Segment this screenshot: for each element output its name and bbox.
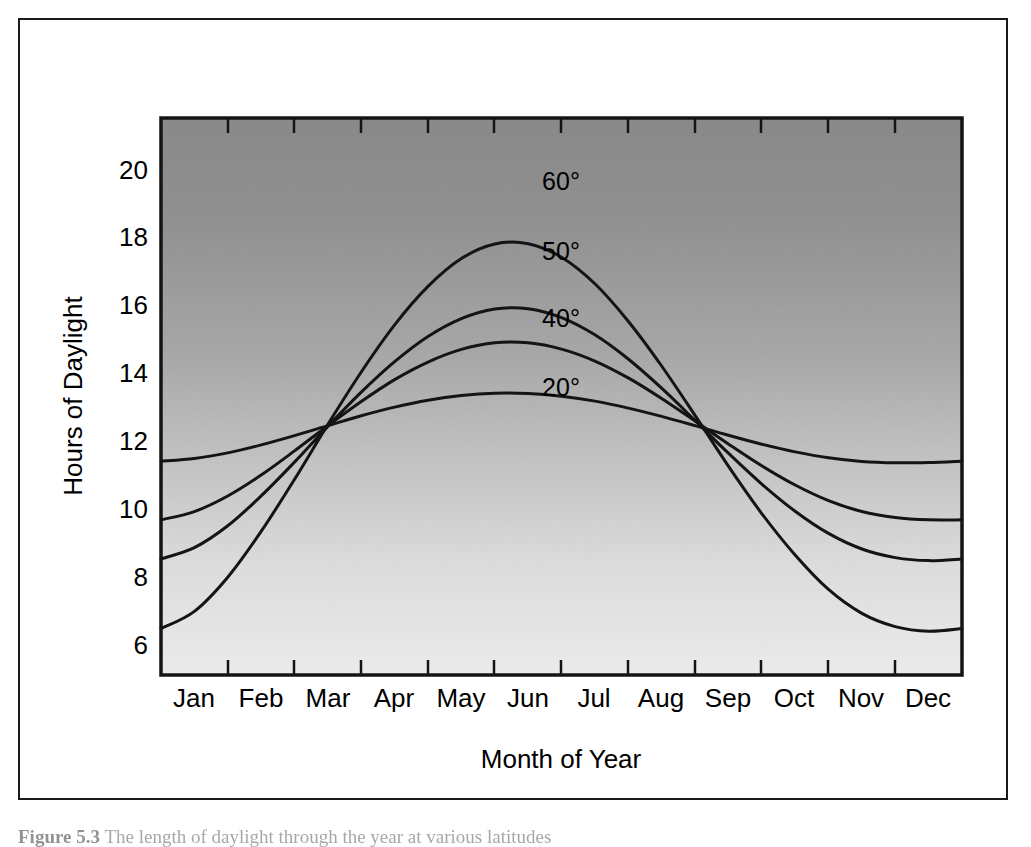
- x-tick-label: Jan: [173, 683, 215, 713]
- x-tick-label: Jul: [577, 683, 610, 713]
- curve-label-20: 20°: [542, 373, 580, 401]
- y-tick-label: 16: [119, 290, 148, 320]
- y-tick-label: 12: [119, 426, 148, 456]
- x-axis-tick-labels: Jan Feb Mar Apr May Jun Jul Aug Sep Oct …: [173, 683, 951, 713]
- chart-svg: 6 8 10 12 14 16 18 20 Jan Feb Mar Apr Ma…: [0, 0, 1031, 847]
- figure-caption: Figure 5.3 The length of daylight throug…: [18, 826, 1008, 847]
- y-tick-label: 8: [134, 562, 148, 592]
- x-tick-label: Sep: [705, 683, 751, 713]
- curve-label-50: 50°: [542, 237, 580, 265]
- x-tick-label: Nov: [838, 683, 884, 713]
- x-tick-label: Aug: [638, 683, 684, 713]
- y-axis-title: Hours of Daylight: [58, 296, 88, 496]
- caption-number: 5.3: [76, 826, 100, 847]
- caption-body: The length of daylight through the year …: [104, 826, 551, 847]
- x-tick-label: Mar: [306, 683, 351, 713]
- y-axis-tick-labels: 6 8 10 12 14 16 18 20: [119, 155, 148, 660]
- y-tick-label: 6: [134, 630, 148, 660]
- y-tick-label: 14: [119, 358, 148, 388]
- x-tick-label: Jun: [507, 683, 549, 713]
- y-tick-label: 18: [119, 222, 148, 252]
- caption-label: Figure: [18, 826, 71, 847]
- curve-label-60: 60°: [542, 167, 580, 195]
- y-tick-label: 10: [119, 494, 148, 524]
- daylight-hours-chart: 6 8 10 12 14 16 18 20 Jan Feb Mar Apr Ma…: [0, 0, 1031, 847]
- x-tick-label: Dec: [905, 683, 951, 713]
- x-tick-label: Apr: [374, 683, 415, 713]
- y-tick-label: 20: [119, 155, 148, 185]
- x-tick-label: Oct: [774, 683, 815, 713]
- figure-caption-strip: Figure 5.3 The length of daylight throug…: [18, 826, 1008, 847]
- curve-label-40: 40°: [542, 304, 580, 332]
- x-tick-label: May: [436, 683, 485, 713]
- x-axis-title: Month of Year: [481, 744, 642, 774]
- x-tick-label: Feb: [239, 683, 284, 713]
